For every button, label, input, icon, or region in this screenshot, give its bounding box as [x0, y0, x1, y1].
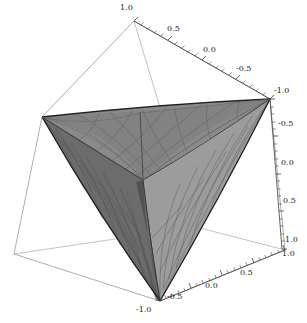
tick-label-top-neg0p5: -0.5 [236, 65, 251, 73]
tick-label-bottom-0p5: 0.5 [240, 269, 253, 277]
tick-label-top-neg1p0: -1.0 [274, 87, 289, 95]
axis-top-right [134, 17, 274, 99]
tick-label-top-1p0: 1.0 [120, 4, 133, 12]
tick-label-top-0p5: 0.5 [167, 25, 180, 33]
tick-label-right-neg0p5: -0.5 [278, 120, 293, 128]
tick-label-bottom-neg0p5: -0.5 [167, 293, 182, 301]
tick-label-top-0p0: 0.0 [203, 46, 216, 54]
tick-label-right-1p0: 1.0 [285, 236, 298, 244]
tick-label-right-0p0: 0.0 [281, 159, 294, 167]
plot-canvas: 1.0 0.5 0.0 -0.5 -1.0 -0.5 0.0 0.5 1.0 1… [0, 0, 307, 323]
tick-label-right-0p5: 0.5 [283, 197, 296, 205]
surface-plot-svg [0, 0, 307, 323]
tick-label-bottom-neg1p0: -1.0 [136, 306, 151, 314]
tick-label-bottom-0p0: 0.0 [205, 282, 218, 290]
tick-label-bottom-1p0: 1.0 [282, 250, 295, 258]
